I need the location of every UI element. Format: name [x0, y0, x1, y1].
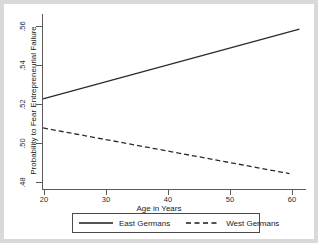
x-tick-label: 40: [164, 195, 172, 204]
legend-item-east-germans: East Germans: [79, 214, 170, 232]
figure-container: Probability to Fear Entrepreneurial Fail…: [0, 0, 318, 243]
series-line-west-germans: [43, 128, 290, 174]
y-axis-title: Probability to Fear Entrepreneurial Fail…: [29, 16, 38, 186]
legend-label: East Germans: [119, 219, 170, 228]
dashed-line-icon: [186, 219, 220, 227]
x-tick-label: 50: [226, 195, 234, 204]
series-canvas: [43, 14, 306, 189]
x-tick-label: 60: [288, 195, 296, 204]
y-tick-label: .50: [18, 138, 27, 148]
plot-area: [42, 14, 306, 190]
x-tick-label: 30: [102, 195, 110, 204]
y-tick-label: .54: [18, 60, 27, 70]
solid-line-icon: [79, 219, 113, 227]
figure-canvas: Probability to Fear Entrepreneurial Fail…: [4, 4, 314, 239]
series-line-east-germans: [43, 29, 299, 99]
y-tick-label: .56: [18, 21, 27, 31]
legend-label: West Germans: [226, 219, 279, 228]
x-tick-label: 20: [40, 195, 48, 204]
plot-region: Probability to Fear Entrepreneurial Fail…: [4, 4, 314, 204]
chart-legend: East Germans West Germans: [72, 213, 260, 233]
legend-item-west-germans: West Germans: [186, 214, 279, 232]
y-tick-label: .48: [18, 177, 27, 187]
y-tick-label: .52: [18, 99, 27, 109]
x-axis-title: Age in Years: [4, 204, 314, 213]
